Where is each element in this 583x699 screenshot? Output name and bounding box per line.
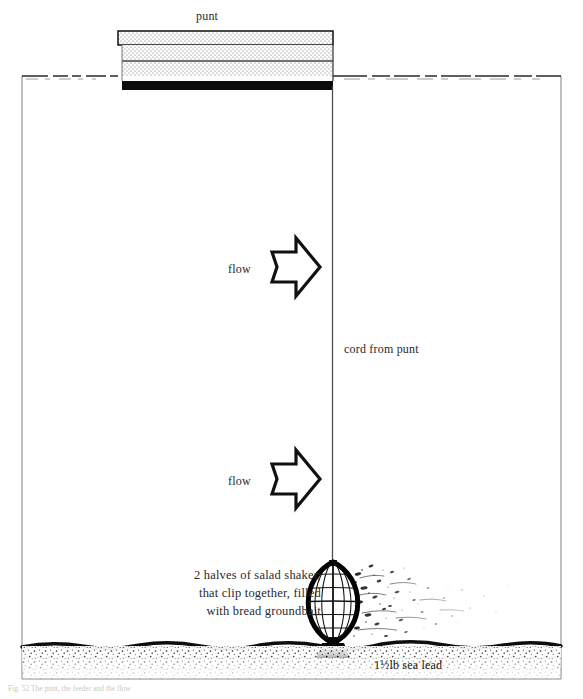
figure-caption: Fig. 52 The punt, the feeder and the flo… bbox=[8, 684, 131, 693]
salad-shaker-label: 2 halves of salad shaker, that clip toge… bbox=[179, 566, 321, 620]
river-bed bbox=[22, 642, 561, 679]
groundbait-plume bbox=[353, 564, 540, 637]
flow-label-upper: flow bbox=[228, 262, 251, 277]
sea-lead-label: 1½lb sea lead bbox=[374, 658, 442, 673]
cord-label: cord from punt bbox=[344, 342, 419, 357]
punt-label: punt bbox=[196, 9, 218, 24]
flow-arrow-lower bbox=[272, 450, 320, 508]
fishing-diagram-figure: punt cord from punt flow flow 2 halves o… bbox=[0, 0, 583, 699]
flow-label-lower: flow bbox=[228, 474, 251, 489]
flow-arrow-upper bbox=[272, 238, 320, 296]
punt-hull bbox=[118, 31, 333, 90]
